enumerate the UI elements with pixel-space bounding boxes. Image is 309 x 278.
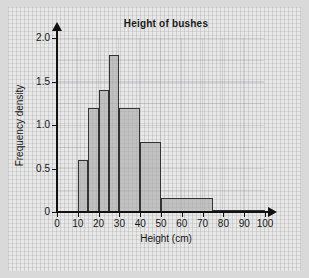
x-tick-mark [57,213,58,217]
y-tick-mark [52,125,56,126]
y-tick-label: 0.5 [20,163,50,174]
chart-page: 0102030405060708090100 00.51.01.52.0 Hei… [0,0,309,278]
x-tick-mark [119,213,120,217]
x-tick-mark [223,213,224,217]
y-tick-label: 2.0 [20,32,50,43]
histogram-bar [99,90,109,212]
x-axis-arrow-icon [268,207,277,217]
x-tick-mark [161,213,162,217]
histogram-bar [78,160,88,212]
histogram-bar [161,198,213,212]
y-tick-label: 1.5 [20,76,50,87]
x-tick-mark [182,213,183,217]
x-tick-mark [78,213,79,217]
histogram-bar [88,108,98,212]
y-tick-mark [52,169,56,170]
x-tick-label: 100 [250,218,280,229]
y-tick-mark [52,82,56,83]
histogram-bar [109,55,119,212]
histogram-bar [119,108,140,212]
x-axis-line [56,211,271,213]
y-axis-arrow-icon [52,22,62,31]
y-tick-label: 0 [20,206,50,217]
y-axis-title: Frequency density [14,71,25,181]
y-axis-line [56,30,58,213]
x-tick-mark [203,213,204,217]
x-tick-mark [99,213,100,217]
x-tick-mark [140,213,141,217]
y-tick-mark [52,212,56,213]
x-tick-mark [244,213,245,217]
x-axis-title: Height (cm) [86,233,246,244]
y-tick-mark [52,38,56,39]
y-tick-label: 1.0 [20,119,50,130]
plot-layer: 0102030405060708090100 00.51.01.52.0 Hei… [0,0,309,278]
histogram-bar [140,142,161,212]
x-tick-mark [265,213,266,217]
chart-title: Height of bushes [86,18,246,29]
